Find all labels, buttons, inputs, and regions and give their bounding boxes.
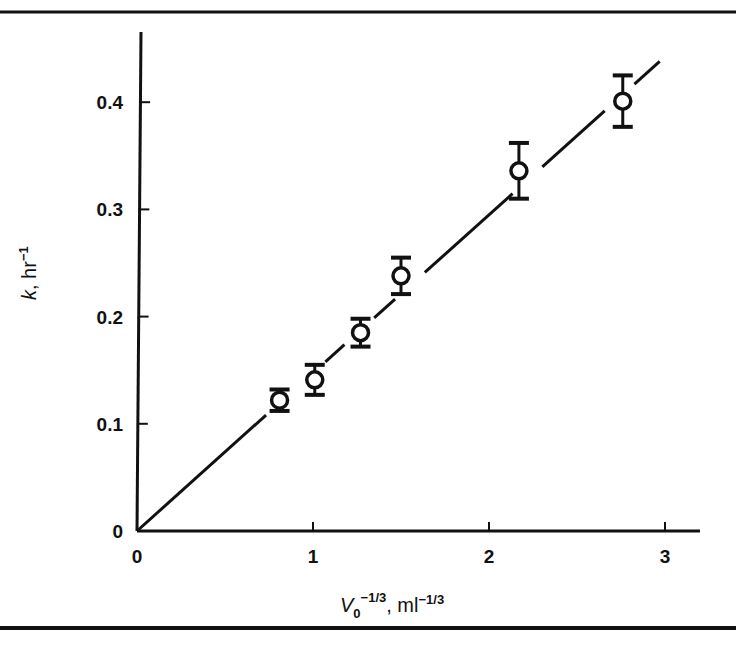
x-axis-label: V0−1/3, ml−1/3 (340, 590, 444, 621)
data-point (509, 143, 529, 199)
fit-line (137, 61, 660, 531)
chart-figure: 012300.10.20.30.4 k, hr−1 V0−1/3, ml−1/3 (0, 0, 736, 655)
data-point (351, 319, 371, 347)
open-circle-marker (272, 392, 288, 408)
fit-line-segment (325, 345, 344, 362)
y-tick-label: 0.1 (97, 414, 124, 435)
data-points (270, 75, 633, 411)
y-axis-label: k, hr−1 (16, 246, 40, 300)
open-circle-marker (393, 268, 409, 284)
open-circle-marker (353, 325, 369, 341)
fit-line-segment (425, 194, 513, 273)
open-circle-marker (511, 163, 527, 179)
fit-line-segment (137, 415, 266, 531)
y-tick-label: 0.4 (97, 92, 124, 113)
fit-line-segment (542, 111, 604, 167)
x-tick-label: 3 (660, 546, 671, 567)
open-circle-marker (615, 93, 631, 109)
y-tick-label: 0.2 (97, 307, 123, 328)
axis-labels: k, hr−1 V0−1/3, ml−1/3 (16, 246, 444, 621)
y-tick-label: 0.3 (97, 199, 123, 220)
y-tick-label: 0 (112, 521, 123, 542)
fit-line-segment (374, 299, 395, 318)
x-tick-label: 2 (484, 546, 495, 567)
fit-line-segment (634, 61, 659, 84)
x-tick-label: 0 (132, 546, 143, 567)
x-tick-label: 1 (308, 546, 319, 567)
data-point (613, 75, 633, 126)
data-point (270, 389, 290, 410)
data-point (305, 365, 325, 395)
y-axis (137, 32, 141, 531)
open-circle-marker (307, 372, 323, 388)
data-point (391, 258, 411, 294)
